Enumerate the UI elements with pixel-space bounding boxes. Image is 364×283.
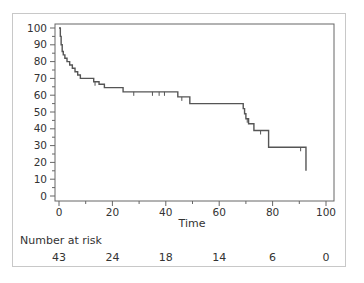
x-tick-label: 100 xyxy=(316,206,336,218)
number-at-risk-value: 14 xyxy=(212,251,226,264)
y-tick-label: 30 xyxy=(34,139,47,151)
y-tick-label: 60 xyxy=(34,89,47,101)
y-tick-label: 50 xyxy=(34,106,47,118)
x-axis: 020406080100 xyxy=(56,201,336,218)
number-at-risk-value: 18 xyxy=(159,251,173,264)
x-axis-title: Time xyxy=(178,217,206,230)
y-tick-label: 40 xyxy=(34,122,47,134)
y-tick-label: 0 xyxy=(40,190,47,202)
y-tick-label: 20 xyxy=(34,156,47,168)
x-tick-label: 60 xyxy=(213,206,226,218)
survival-step-line xyxy=(59,28,306,171)
number-at-risk-label: Number at risk xyxy=(20,234,102,247)
number-at-risk-value: 6 xyxy=(269,251,276,264)
y-tick-label: 100 xyxy=(27,22,47,34)
x-tick-label: 20 xyxy=(106,206,119,218)
y-tick-label: 10 xyxy=(34,173,47,185)
y-tick-label: 90 xyxy=(34,38,47,50)
number-at-risk-value: 43 xyxy=(52,251,66,264)
x-tick-label: 40 xyxy=(159,206,172,218)
number-at-risk-value: 24 xyxy=(105,251,119,264)
survival-curve xyxy=(59,28,306,171)
plot-area xyxy=(55,24,334,201)
y-tick-label: 70 xyxy=(34,72,47,84)
plot-border xyxy=(55,24,334,201)
y-axis: 0102030405060708090100 xyxy=(27,22,55,202)
number-at-risk-value: 0 xyxy=(323,251,330,264)
x-tick-label: 80 xyxy=(266,206,279,218)
x-tick-label: 0 xyxy=(56,206,63,218)
y-tick-label: 80 xyxy=(34,55,47,67)
